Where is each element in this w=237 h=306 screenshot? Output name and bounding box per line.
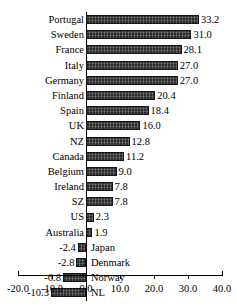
bar [86,182,113,191]
plot-area: Portugal33.2Sweden31.0France28.1Italy27.… [0,0,237,306]
bar [86,76,178,85]
category-label: Spain [60,103,84,118]
bar [86,197,113,206]
bar-row: DenmarkDenmark-2.8 [0,255,237,270]
value-label: 11.2 [126,149,144,164]
x-axis-tick [188,275,189,279]
value-label: 28.1 [184,42,202,57]
bar [86,121,140,130]
bar [86,213,94,222]
category-label: France [55,42,84,57]
x-axis-tick [18,271,19,276]
bar-row: Australia1.9 [0,225,237,240]
value-label: 9.0 [119,164,132,179]
bar [86,167,117,176]
bar-row: Spain18.4 [0,103,237,118]
category-label: Finland [52,88,84,103]
bar-row: Ireland7.8 [0,179,237,194]
bar-row: France28.1 [0,42,237,57]
value-label: 27.0 [180,73,198,88]
x-axis-tick-label: 0.0 [79,283,92,294]
category-label: SZ [72,194,84,209]
value-label: 7.8 [115,179,128,194]
x-axis-tick [154,275,155,279]
bar-row: Italy27.0 [0,58,237,73]
value-label: 18.4 [151,103,169,118]
x-axis-tick-label: -20.0 [7,283,29,294]
value-label: 1.9 [94,225,107,240]
x-axis-tick-label: -10.0 [41,283,63,294]
bar [86,91,155,100]
category-label: Japan [91,240,115,255]
bar [86,45,182,54]
category-label: Australia [46,225,85,240]
x-axis-tick-label: 20.0 [145,283,163,294]
category-label: US [71,209,84,224]
value-label: 31.0 [193,27,211,42]
bar [86,15,199,24]
bar-row: US2.3 [0,209,237,224]
bar-row: SZ7.8 [0,194,237,209]
x-axis-tick-label: 10.0 [111,283,129,294]
category-label: NZ [70,134,84,149]
bar-chart: Portugal33.2Sweden31.0France28.1Italy27.… [0,0,237,306]
bar-row: Sweden31.0 [0,27,237,42]
x-axis-tick [52,275,53,279]
category-label: Germany [45,73,84,88]
x-axis-tick [222,271,223,276]
category-label: Sweden [51,27,84,42]
value-label: 27.0 [180,58,198,73]
value-label: 20.4 [157,88,175,103]
value-label: 7.8 [115,194,128,209]
value-label: 2.3 [96,209,109,224]
bar-row: NZ12.8 [0,134,237,149]
bar-row: Belgium9.0 [0,164,237,179]
bar [86,106,149,115]
value-label: 16.0 [142,118,160,133]
category-label: Canada [53,149,85,164]
bar [86,152,124,161]
bar [86,61,178,70]
category-label: Italy [65,58,84,73]
bar-row: Portugal33.2 [0,12,237,27]
x-axis-tick [120,275,121,279]
value-label: 12.8 [132,134,150,149]
category-label: NL [91,285,105,300]
x-axis-tick [86,275,87,279]
bar-row: UK16.0 [0,118,237,133]
bar [86,30,191,39]
bar-row: Finland20.4 [0,88,237,103]
category-label: UK [69,118,84,133]
bar [76,258,86,267]
bar-row: Germany27.0 [0,73,237,88]
bar-rows: Portugal33.2Sweden31.0France28.1Italy27.… [0,12,237,301]
bar-row: JapanJapan-2.4 [0,240,237,255]
value-label: -2.4 [59,240,76,255]
x-axis-tick-label: 40.0 [213,283,231,294]
category-label: Denmark [91,255,130,270]
category-label: Portugal [48,12,84,27]
bar [86,137,130,146]
x-axis-tick-label: 30.0 [179,283,197,294]
value-label: 33.2 [201,12,219,27]
value-label: -2.8 [58,255,75,270]
bar [86,228,92,237]
bar [78,243,86,252]
category-label: Ireland [54,179,84,194]
bar-row: Canada11.2 [0,149,237,164]
category-label: Belgium [48,164,84,179]
